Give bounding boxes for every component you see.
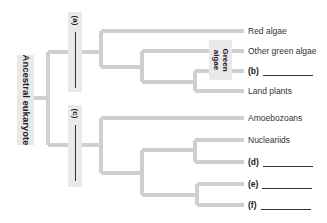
answer-blank-d[interactable] xyxy=(263,158,313,167)
leaf-amoebozoans: Amoebozoans xyxy=(248,113,302,123)
clade-label-c: (c) xyxy=(68,105,82,187)
answer-blank-a[interactable] xyxy=(75,32,76,88)
answer-blank-f[interactable] xyxy=(261,201,311,210)
leaf-e: (e) xyxy=(248,179,312,189)
leaf-land-plants: Land plants xyxy=(248,86,292,96)
leaf-b: (b) xyxy=(248,66,313,76)
green-algae-label: Greenalgae xyxy=(212,48,230,71)
leaf-other-green-algae: Other green algae xyxy=(248,46,317,56)
leaf-d: (d) xyxy=(248,157,313,167)
clade-tag-a: (a) xyxy=(71,14,80,28)
clade-tag-c: (c) xyxy=(71,107,80,121)
phylogenetic-tree: Ancestral eukaryote (a) (c) Greenalgae R… xyxy=(0,0,327,223)
leaf-nucleariids: Nucleariids xyxy=(248,135,290,145)
answer-blank-e[interactable] xyxy=(262,180,312,189)
green-algae-label-box: Greenalgae xyxy=(209,40,232,80)
leaf-f: (f) xyxy=(248,200,311,210)
root-label-box: Ancestral eukaryote xyxy=(17,55,34,145)
answer-blank-c[interactable] xyxy=(75,125,76,181)
leaf-red-algae: Red algae xyxy=(248,26,287,36)
answer-blank-b[interactable] xyxy=(263,67,313,76)
clade-label-a: (a) xyxy=(68,12,82,92)
root-label: Ancestral eukaryote xyxy=(20,55,31,146)
